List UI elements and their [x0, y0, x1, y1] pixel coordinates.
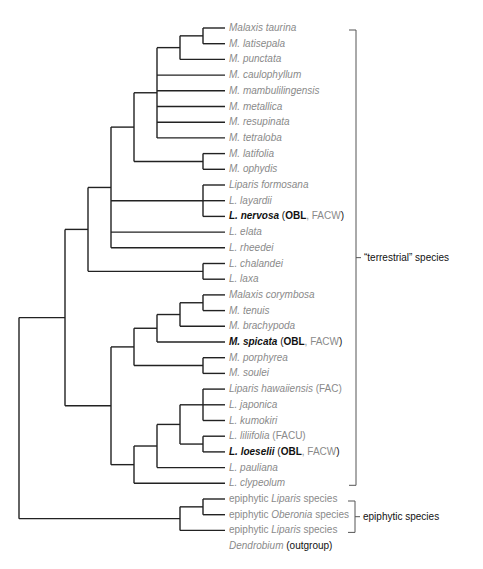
tip-label-part: L. rheedei — [229, 242, 273, 253]
tip-label-part: OBL — [283, 336, 304, 347]
tip-label: L. clypeolum — [229, 477, 285, 489]
tip-label: Liparis formosana — [229, 179, 308, 191]
tip-label-part: M. mambulilingensis — [229, 85, 320, 96]
tip-label-part: epiphytic — [229, 493, 271, 504]
tip-label-part: M. resupinata — [229, 116, 290, 127]
tip-label: Malaxis taurina — [229, 22, 296, 34]
tip-label: L. japonica — [229, 399, 277, 411]
tip-label-part: L. laxa — [229, 273, 258, 284]
tip-label: epiphytic Liparis species — [229, 493, 337, 505]
tip-label-part: (outgroup) — [283, 540, 332, 551]
tip-label-part: epiphytic — [229, 509, 271, 520]
tip-label-part: species — [312, 509, 349, 520]
tip-label: L. pauliana — [229, 462, 278, 474]
tip-label: M. mambulilingensis — [229, 85, 320, 97]
tip-label: Dendrobium (outgroup) — [229, 540, 332, 552]
tip-label-part: , FACW — [306, 210, 340, 221]
terrestrial-group-label: “terrestrial” species — [364, 252, 449, 264]
tip-label: M. spicata (OBL, FACW) — [229, 336, 342, 348]
tip-label-part: L. nervosa — [229, 210, 279, 221]
tip-label: M. ophydis — [229, 163, 277, 175]
tip-label: M. tetraloba — [229, 132, 282, 144]
tip-label: L. nervosa (OBL, FACW) — [229, 210, 344, 222]
tip-label: M. tenuis — [229, 305, 270, 317]
tip-label: M. brachypoda — [229, 320, 295, 332]
tip-label: M. punctata — [229, 53, 281, 65]
tip-label-part: M. soulei — [229, 367, 269, 378]
tip-label-part: (FAC) — [313, 383, 342, 394]
tip-label-part: L. kumokiri — [229, 415, 277, 426]
tip-label-part: M. porphyrea — [229, 352, 288, 363]
tip-label-part: Oberonia — [271, 509, 312, 520]
tip-label-part: Dendrobium — [229, 540, 283, 551]
tip-label: M. latifolia — [229, 148, 274, 160]
tip-label: Liparis hawaiiensis (FAC) — [229, 383, 342, 395]
tip-label-part: , FACW — [305, 336, 339, 347]
tip-label-part: L. liliifolia — [229, 430, 270, 441]
tip-label-part: Liparis — [271, 493, 300, 504]
tip-label: L. elata — [229, 226, 262, 238]
tip-label-part: M. spicata — [229, 336, 277, 347]
tip-label-part: OBL — [285, 210, 306, 221]
tip-label-part: epiphytic — [229, 524, 271, 535]
tip-label: Malaxis corymbosa — [229, 289, 315, 301]
tip-label-part: M. ophydis — [229, 163, 277, 174]
tip-label: M. resupinata — [229, 116, 290, 128]
tip-label: M. latisepala — [229, 38, 285, 50]
tip-label-part: Liparis hawaiiensis — [229, 383, 313, 394]
tip-label: epiphytic Oberonia species — [229, 509, 349, 521]
tip-label: L. rheedei — [229, 242, 273, 254]
tip-label-part: M. tenuis — [229, 305, 270, 316]
tip-label-part: species — [301, 493, 338, 504]
tip-label: L. chalandei — [229, 258, 283, 270]
tip-label-part: M. caulophyllum — [229, 69, 301, 80]
tip-label-part: Malaxis corymbosa — [229, 289, 315, 300]
tip-label-part: L. japonica — [229, 399, 277, 410]
epiphytic-group-label: epiphytic species — [363, 511, 439, 523]
tip-label: L. laxa — [229, 273, 258, 285]
tip-label-part: M. latifolia — [229, 148, 274, 159]
tip-label-part: Liparis formosana — [229, 179, 308, 190]
tip-label-part: ) — [336, 446, 339, 457]
tip-label: M. soulei — [229, 367, 269, 379]
tip-label-part: Liparis — [271, 524, 300, 535]
tip-label: L. loeselii (OBL, FACW) — [229, 446, 340, 458]
tip-label-part: L. loeselii — [229, 446, 275, 457]
tip-label: L. layardii — [229, 195, 272, 207]
tip-label: L. liliifolia (FACU) — [229, 430, 306, 442]
tip-label-part: L. pauliana — [229, 462, 278, 473]
tip-label-part: (FACU) — [270, 430, 306, 441]
tip-label: M. caulophyllum — [229, 69, 301, 81]
tip-label: epiphytic Liparis species — [229, 524, 337, 536]
tip-label-part: L. chalandei — [229, 258, 283, 269]
tip-label-part: Malaxis taurina — [229, 22, 296, 33]
tip-label-part: ) — [339, 336, 342, 347]
tip-label: M. porphyrea — [229, 352, 288, 364]
tip-label-part: M. tetraloba — [229, 132, 282, 143]
tip-label-part: M. metallica — [229, 101, 282, 112]
tip-label-part: L. layardii — [229, 195, 272, 206]
tip-label-part: OBL — [281, 446, 302, 457]
tip-label-part: , FACW — [302, 446, 336, 457]
tip-label-part: M. brachypoda — [229, 320, 295, 331]
tip-label-part: ) — [341, 210, 344, 221]
tip-label: M. metallica — [229, 101, 282, 113]
tip-label-part: M. latisepala — [229, 38, 285, 49]
tip-label-part: species — [301, 524, 338, 535]
tip-label-part: L. elata — [229, 226, 262, 237]
tip-label: L. kumokiri — [229, 415, 277, 427]
tip-label-part: M. punctata — [229, 53, 281, 64]
tip-label-part: L. clypeolum — [229, 477, 285, 488]
